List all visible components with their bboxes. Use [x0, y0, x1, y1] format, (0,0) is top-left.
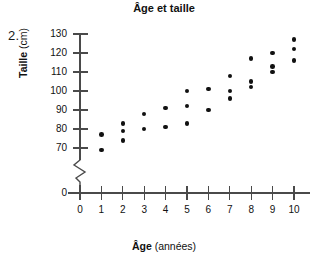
- data-point: [249, 85, 254, 90]
- data-point: [163, 125, 168, 130]
- y-tick-label-70: 70: [39, 142, 67, 153]
- data-point: [121, 138, 126, 143]
- data-point: [228, 89, 233, 94]
- y-axis-label-text: Taille: [17, 52, 29, 78]
- y-tick-100: [73, 90, 88, 91]
- x-tick-4: [165, 186, 166, 200]
- data-point: [249, 56, 254, 61]
- y-axis-unit: (cm): [17, 28, 29, 52]
- data-point: [206, 87, 211, 92]
- x-tick-label-4: 4: [155, 204, 177, 215]
- data-point: [270, 64, 275, 69]
- x-tick-label-6: 6: [197, 204, 219, 215]
- data-point: [185, 89, 190, 94]
- chart-title: Âge et taille: [0, 2, 328, 14]
- x-tick-label-7: 7: [219, 204, 241, 215]
- data-point: [185, 121, 190, 126]
- x-axis-label: Âge (années): [0, 240, 328, 252]
- x-tick-9: [272, 186, 273, 200]
- y-axis-break-icon: [70, 156, 90, 186]
- y-tick-label-120: 120: [39, 47, 67, 58]
- x-tick-0: [79, 186, 80, 200]
- x-tick-label-10: 10: [283, 204, 305, 215]
- x-tick-2: [122, 186, 123, 200]
- y-tick-label-zero: 0: [39, 187, 67, 198]
- data-point: [292, 37, 297, 42]
- y-tick-130: [73, 33, 88, 34]
- data-point: [185, 104, 190, 109]
- x-tick-6: [208, 186, 209, 200]
- x-tick-label-2: 2: [112, 204, 134, 215]
- y-tick-label-110: 110: [39, 66, 67, 77]
- x-axis-unit: (années): [152, 240, 196, 252]
- y-tick-80: [73, 128, 88, 129]
- x-tick-3: [144, 186, 145, 200]
- x-tick-label-9: 9: [262, 204, 284, 215]
- x-axis-line: [68, 192, 310, 193]
- data-point: [292, 47, 297, 52]
- data-point: [249, 79, 254, 84]
- x-tick-1: [101, 186, 102, 200]
- data-point: [292, 58, 297, 63]
- data-point: [142, 112, 147, 117]
- data-point: [206, 108, 211, 113]
- data-point: [99, 132, 104, 137]
- x-tick-8: [251, 186, 252, 200]
- y-tick-label-80: 80: [39, 123, 67, 134]
- y-axis-label: Taille (cm): [17, 28, 29, 78]
- x-tick-5: [186, 186, 187, 200]
- data-point: [163, 106, 168, 111]
- data-point: [270, 51, 275, 56]
- x-tick-label-3: 3: [133, 204, 155, 215]
- x-tick-label-0: 0: [69, 204, 91, 215]
- data-point: [142, 127, 147, 132]
- data-point: [270, 70, 275, 75]
- x-tick-10: [293, 186, 294, 200]
- y-tick-70: [73, 147, 88, 148]
- data-point: [121, 129, 126, 134]
- data-point: [228, 74, 233, 79]
- y-tick-110: [73, 71, 88, 72]
- y-tick-90: [73, 109, 88, 110]
- data-point: [99, 148, 104, 153]
- x-tick-7: [229, 186, 230, 200]
- x-tick-label-5: 5: [176, 204, 198, 215]
- data-point: [228, 96, 233, 101]
- x-axis-label-text: Âge: [132, 240, 152, 252]
- data-point: [121, 121, 126, 126]
- y-tick-label-90: 90: [39, 104, 67, 115]
- y-tick-label-130: 130: [39, 28, 67, 39]
- x-tick-label-8: 8: [240, 204, 262, 215]
- y-tick-120: [73, 52, 88, 53]
- scatter-plot-figure: 2. Âge et taille Taille (cm) Âge (années…: [0, 0, 328, 268]
- x-tick-label-1: 1: [90, 204, 112, 215]
- y-tick-label-100: 100: [39, 85, 67, 96]
